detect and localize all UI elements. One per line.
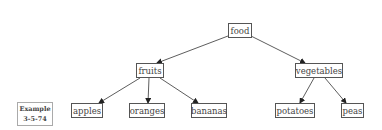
node-fruits: fruits — [136, 63, 164, 78]
edge-vegetables-potatoes — [300, 78, 314, 103]
node-oranges: oranges — [129, 103, 165, 118]
example-label: Example 3-5-74 — [17, 102, 53, 126]
edge-fruits-bananas — [160, 78, 198, 103]
example-label-title: Example — [19, 104, 50, 114]
edge-fruits-oranges — [148, 78, 149, 103]
edge-vegetables-peas — [325, 78, 346, 103]
node-vegetables: vegetables — [295, 63, 343, 78]
node-potatoes: potatoes — [275, 103, 315, 118]
edge-food-fruits — [157, 36, 228, 63]
node-bananas: bananas — [191, 103, 227, 118]
node-apples: apples — [71, 103, 103, 118]
node-peas: peas — [341, 103, 364, 118]
tree-diagram: food fruits vegetables apples oranges ba… — [0, 0, 382, 130]
example-label-number: 3-5-74 — [23, 114, 47, 124]
node-food: food — [228, 23, 252, 38]
edge-food-vegetables — [251, 36, 305, 63]
edge-fruits-apples — [99, 78, 140, 103]
